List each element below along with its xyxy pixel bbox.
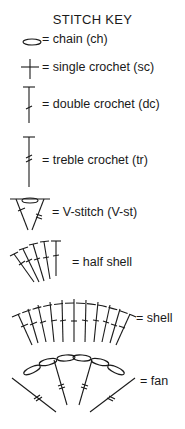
double-crochet-label: = double crochet (dc) — [42, 97, 160, 111]
single-crochet-label: = single crochet (sc) — [42, 60, 154, 74]
v-stitch-label: = V-stitch (V-st) — [52, 205, 137, 219]
half-shell-symbol-icon — [8, 240, 66, 284]
double-crochet-symbol-icon — [22, 86, 36, 124]
chain-symbol-icon — [20, 35, 44, 49]
treble-crochet-label: = treble crochet (tr) — [42, 153, 148, 167]
single-crochet-symbol-icon — [20, 58, 40, 80]
chain-label: = chain (ch) — [42, 32, 108, 46]
fan-label: = fan — [140, 374, 168, 388]
fan-symbol-icon — [10, 352, 136, 414]
shell-symbol-icon — [10, 297, 138, 347]
treble-crochet-symbol-icon — [22, 136, 36, 188]
stitch-key-title: STITCH KEY — [0, 12, 185, 27]
v-stitch-symbol-icon — [8, 197, 52, 231]
shell-label: = shell — [136, 311, 172, 325]
half-shell-label: = half shell — [72, 255, 132, 269]
